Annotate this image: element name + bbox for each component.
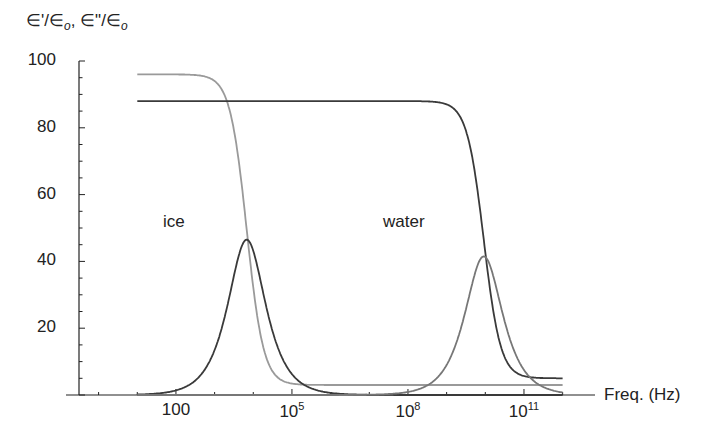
x-tick-label: 105	[262, 400, 322, 422]
y-tick-label: 100	[6, 50, 56, 70]
y-tick-label: 60	[6, 184, 56, 204]
x-tick-label: 1011	[494, 400, 554, 422]
y-tick-label: 40	[6, 250, 56, 270]
annotation-water: water	[383, 212, 425, 232]
y-tick-label: 80	[6, 117, 56, 137]
y-axis-label: ∈'/∈o, ∈"/∈o	[26, 10, 128, 33]
chart-plot-area	[0, 0, 717, 444]
axes	[66, 61, 595, 395]
curves	[137, 74, 562, 395]
x-tick-label: 108	[378, 400, 438, 422]
series-water-real	[137, 101, 562, 378]
x-tick-label: 100	[146, 400, 206, 420]
y-tick-label: 20	[6, 317, 56, 337]
x-axis-label: Freq. (Hz)	[604, 385, 681, 405]
series-ice-imag	[137, 240, 562, 395]
annotation-ice: ice	[163, 212, 185, 232]
